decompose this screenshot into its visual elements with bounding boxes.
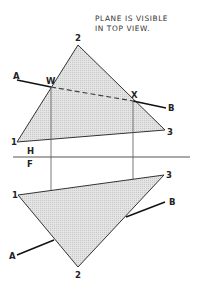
- note-line-1: PLANE IS VISIBLE: [95, 14, 168, 23]
- front-line-a-segment: [17, 240, 54, 255]
- top-vertex-1-label: 1: [11, 137, 17, 147]
- front-b-label: B: [169, 197, 175, 207]
- front-vertex-2-label: 2: [75, 270, 81, 280]
- descriptive-geometry-diagram: PLANE IS VISIBLE IN TOP VIEW. 2 1 3 A B …: [0, 0, 200, 289]
- piercing-point-x-label: X: [131, 90, 138, 100]
- front-vertex-3-label: 3: [166, 170, 172, 180]
- front-view: 1 3 2 A B: [9, 170, 175, 280]
- top-a-label: A: [13, 71, 20, 81]
- fold-label-h: H: [27, 146, 34, 156]
- note-line-2: IN TOP VIEW.: [95, 24, 150, 33]
- front-a-label: A: [9, 251, 16, 261]
- top-b-label: B: [168, 103, 174, 113]
- top-vertex-3-label: 3: [167, 127, 173, 137]
- top-view: 2 1 3 A B W X: [11, 33, 174, 147]
- front-vertex-1-label: 1: [12, 190, 18, 200]
- fold-line: H F: [13, 146, 190, 169]
- top-vertex-2-label: 2: [75, 33, 81, 43]
- front-view-plane: [18, 175, 164, 267]
- fold-label-f: F: [27, 159, 33, 169]
- piercing-point-w-label: W: [46, 76, 56, 86]
